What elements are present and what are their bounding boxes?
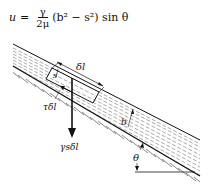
label-angle: θ [133,152,139,163]
bed-line [13,66,200,176]
inclined-plane-figure: δl s τδl γsδl b θ [0,0,217,186]
label-depth: b [121,117,127,127]
flow-diagram: u = γ 2μ (b² − s²) sin θ [0,0,217,186]
fluid-layer [13,48,200,175]
free-surface-line [13,44,200,140]
label-shear: τδl [43,102,56,112]
label-s: s [53,71,57,80]
label-weight: γsδl [60,142,78,152]
label-delta-l: δl [76,61,85,72]
